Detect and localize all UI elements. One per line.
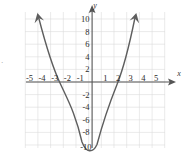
parabola-plot: x y -5 -4 -3 -2 -1 1 2 3 4 5 10 8 6 4 2 … — [0, 0, 186, 154]
y-tick-label: 10 — [81, 14, 90, 24]
y-tick-label: -10 — [80, 142, 91, 152]
x-tick-label: 5 — [154, 73, 158, 83]
y-tick-label: 8 — [85, 27, 89, 37]
x-tick-label: 2 — [116, 73, 120, 83]
y-axis-label: y — [92, 1, 97, 10]
x-axis-label: x — [176, 69, 181, 78]
y-tick-label: -2 — [82, 90, 89, 100]
y-tick-label: -6 — [82, 115, 89, 125]
x-tick-label: -3 — [51, 73, 58, 83]
y-tick-label: 6 — [85, 39, 89, 49]
x-tick-label: 1 — [103, 73, 107, 83]
x-tick-label: -1 — [77, 73, 84, 83]
x-tick-label: -2 — [64, 73, 71, 83]
x-tick-label: -5 — [26, 73, 33, 83]
x-tick-label: -4 — [38, 73, 46, 83]
x-tick-label: 3 — [129, 73, 133, 83]
y-tick-label: -4 — [82, 102, 90, 112]
x-tick-label: 4 — [141, 73, 146, 83]
graph-figure: · — [0, 0, 186, 154]
y-tick-label: -8 — [82, 127, 89, 137]
y-tick-label: 2 — [85, 64, 89, 74]
